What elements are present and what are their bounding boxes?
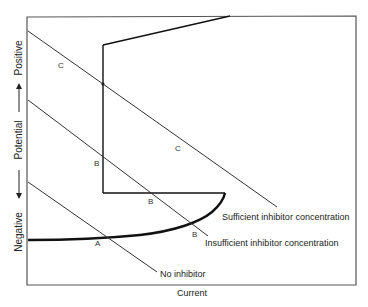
point-label-a1: A (95, 239, 101, 248)
point-label-b2: B (148, 197, 153, 206)
polarization-diagram: C C B B B A Sufficient inhibitor concent… (0, 0, 368, 307)
point-label-c2: C (175, 144, 181, 153)
point-label-c1: C (58, 61, 64, 70)
label-sufficient-inhibitor: Sufficient inhibitor concentration (222, 212, 349, 222)
anodic-curve-transpassive (103, 16, 230, 45)
line-insufficient-inhibitor (28, 100, 208, 236)
line-no-inhibitor (28, 182, 157, 272)
y-axis-label-positive: Positive (13, 40, 24, 75)
point-label-b3: B (192, 230, 197, 239)
y-axis-label-negative: Negative (13, 212, 24, 252)
line-sufficient-inhibitor (28, 31, 277, 207)
x-axis-label: Current (177, 288, 208, 298)
label-insufficient-inhibitor: Insufficient inhibitor concentration (205, 238, 338, 248)
label-no-inhibitor: No inhibitor (160, 269, 206, 279)
point-label-b1: B (94, 159, 99, 168)
y-axis-label-potential: Potential (13, 121, 24, 160)
